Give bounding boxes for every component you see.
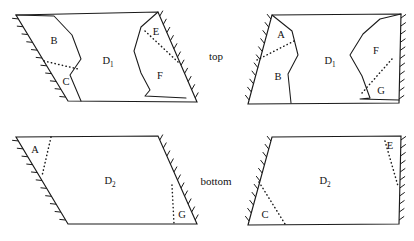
hatch-tick bbox=[263, 30, 267, 35]
hatch-tick bbox=[400, 184, 405, 188]
hatch-tick bbox=[170, 159, 173, 164]
hatch-tick bbox=[45, 196, 51, 197]
hatch-tick bbox=[160, 11, 163, 16]
hatch-tick bbox=[401, 23, 406, 27]
hatch-tick bbox=[247, 208, 251, 213]
hatch-tick bbox=[256, 55, 260, 60]
hatch-tick bbox=[265, 22, 269, 27]
hatch-tick bbox=[247, 87, 251, 92]
hatch-tick bbox=[400, 176, 405, 180]
hatch-tick bbox=[245, 95, 249, 100]
hatch-tick bbox=[399, 79, 404, 83]
top-right-panel: ABD1FG bbox=[245, 14, 406, 104]
hatch-tick bbox=[185, 191, 188, 196]
top-right-region-label-B: B bbox=[274, 71, 281, 82]
hatch-tick bbox=[163, 143, 166, 148]
hatch-tick bbox=[192, 84, 195, 89]
hatch-tick bbox=[401, 152, 406, 156]
hatch-tick bbox=[401, 14, 406, 18]
hatch-tick bbox=[188, 76, 191, 81]
hatch-tick bbox=[399, 216, 404, 220]
hatch-tick bbox=[36, 57, 42, 58]
subscript: 1 bbox=[332, 62, 336, 70]
hatch-tick bbox=[170, 35, 173, 40]
hatch-tick bbox=[188, 199, 191, 204]
hatch-tick bbox=[400, 47, 405, 51]
bottom-left-panel: AD2G bbox=[12, 135, 198, 224]
side-label-top: top bbox=[209, 50, 224, 62]
hatch-tick bbox=[400, 39, 405, 43]
parallelogram-diagram: BCD1EFABD1FGAD2GCD2E top bottom bbox=[0, 0, 414, 241]
bottom-right-region-label-C: C bbox=[261, 209, 268, 220]
hatch-tick bbox=[55, 89, 61, 90]
subscript: 2 bbox=[112, 182, 116, 190]
hatch-tick bbox=[17, 26, 23, 27]
hatch-tick bbox=[41, 188, 47, 189]
hatch-tick bbox=[261, 38, 265, 43]
hatch-tick bbox=[401, 136, 406, 140]
hatch-tick bbox=[22, 156, 28, 157]
hatch-tick bbox=[263, 152, 267, 157]
top-left-region-label-C: C bbox=[62, 76, 69, 87]
top-left-panel: BCD1EF bbox=[12, 11, 198, 102]
hatch-tick bbox=[181, 60, 184, 65]
hatch-tick bbox=[59, 96, 65, 97]
hatch-tick bbox=[401, 144, 406, 148]
hatch-tick bbox=[252, 192, 256, 197]
hatch-tick bbox=[41, 65, 47, 66]
hatch-tick bbox=[245, 216, 249, 221]
top-right-region-label-A: A bbox=[277, 29, 285, 40]
hatch-tick bbox=[12, 18, 18, 19]
hatch-tick bbox=[267, 14, 271, 19]
bottom-left-region-label-G: G bbox=[178, 209, 186, 220]
hatch-tick bbox=[31, 172, 37, 173]
hatch-tick bbox=[401, 31, 406, 35]
hatch-tick bbox=[399, 200, 404, 204]
top-left-region-label-F: F bbox=[157, 70, 163, 81]
hatch-tick bbox=[399, 95, 404, 99]
hatch-tick bbox=[59, 219, 65, 220]
panels-layer: BCD1EFABD1FGAD2GCD2E bbox=[12, 11, 406, 225]
hatch-tick bbox=[55, 211, 61, 212]
hatch-tick bbox=[250, 200, 254, 205]
hatch-tick bbox=[45, 73, 51, 74]
hatch-tick bbox=[36, 180, 42, 181]
subscript: 2 bbox=[327, 182, 331, 190]
hatch-tick bbox=[400, 71, 405, 75]
hatch-tick bbox=[160, 135, 163, 140]
side-labels-layer: top bottom bbox=[200, 50, 232, 187]
hatch-tick bbox=[250, 79, 254, 84]
hatch-tick bbox=[174, 43, 177, 48]
hatch-tick bbox=[254, 63, 258, 68]
hatch-tick bbox=[252, 71, 256, 76]
hatch-tick bbox=[256, 176, 260, 181]
hatch-tick bbox=[26, 164, 32, 165]
hatch-tick bbox=[254, 184, 258, 189]
hatch-tick bbox=[181, 183, 184, 188]
hatch-tick bbox=[400, 55, 405, 59]
hatch-tick bbox=[400, 168, 405, 172]
hatch-tick bbox=[192, 207, 195, 212]
subscript: 1 bbox=[110, 62, 114, 70]
hatch-tick bbox=[399, 208, 404, 212]
hatch-tick bbox=[50, 204, 56, 205]
bottom-right-panel: CD2E bbox=[245, 136, 406, 225]
hatch-tick bbox=[195, 92, 198, 97]
hatch-tick bbox=[267, 136, 271, 141]
hatch-tick bbox=[178, 175, 181, 180]
hatch-tick bbox=[174, 167, 177, 172]
top-right-region-label-G: G bbox=[377, 85, 385, 96]
hatch-tick bbox=[265, 144, 269, 149]
hatch-tick bbox=[399, 87, 404, 91]
top-right-region-label-F: F bbox=[373, 45, 379, 56]
hatch-tick bbox=[17, 148, 23, 149]
top-left-region-label-B: B bbox=[50, 35, 57, 46]
hatch-tick bbox=[400, 160, 405, 164]
hatch-tick bbox=[400, 63, 405, 67]
figure-root: BCD1EFABD1FGAD2GCD2E top bottom bbox=[0, 0, 414, 241]
hatch-tick bbox=[26, 42, 32, 43]
hatch-tick bbox=[167, 151, 170, 156]
bottom-left-region-label-A: A bbox=[31, 144, 39, 155]
hatch-tick bbox=[163, 19, 166, 24]
hatch-tick bbox=[50, 81, 56, 82]
